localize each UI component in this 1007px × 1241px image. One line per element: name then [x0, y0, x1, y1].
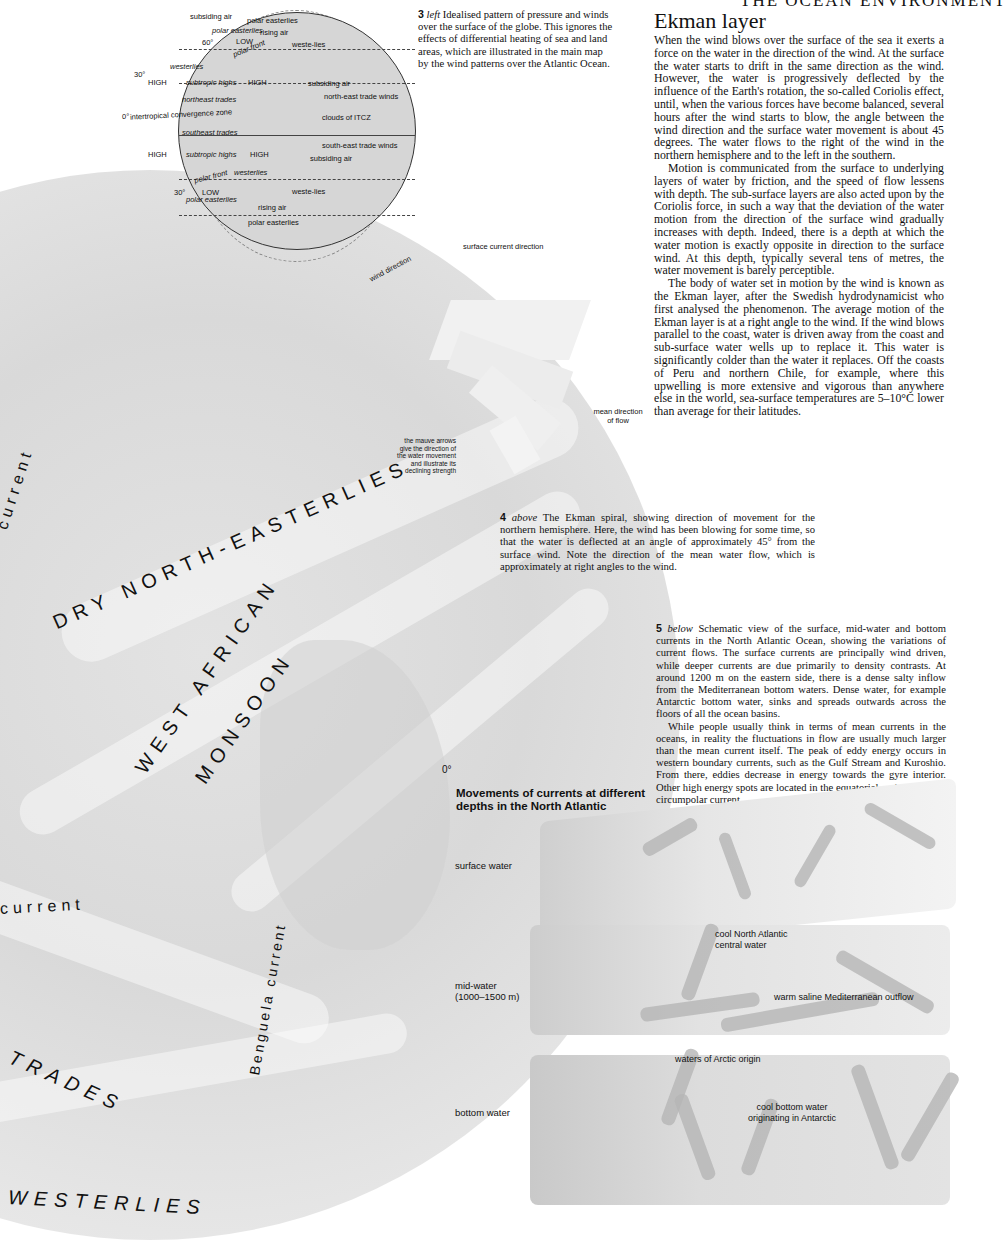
annotation-line: originating in Antarctic: [748, 1113, 836, 1124]
annotation-line: cool bottom water: [748, 1102, 836, 1113]
annotation-cool-na: cool North Atlantic central water: [715, 929, 788, 951]
annotation-arctic: waters of Arctic origin: [675, 1054, 761, 1065]
annotation-line: cool North Atlantic: [715, 929, 788, 940]
annotation-med-outflow: warm saline Mediterranean outflow: [774, 992, 914, 1003]
layer-label-surface: surface water: [455, 860, 512, 871]
layer-label-mid: mid-water: [455, 980, 497, 991]
annotation-line: central water: [715, 940, 788, 951]
layer-label-bottom: bottom water: [455, 1107, 510, 1118]
annotation-antarctic: cool bottom water originating in Antarct…: [748, 1102, 836, 1124]
layer-label-mid-depth: (1000–1500 m): [455, 991, 519, 1002]
